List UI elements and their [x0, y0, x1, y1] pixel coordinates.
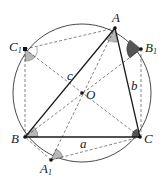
triangle-ABC — [25, 28, 140, 137]
side-label-b: b — [131, 78, 138, 93]
label-B1: B1 — [145, 40, 157, 56]
point-A — [113, 26, 117, 30]
point-O — [80, 91, 84, 95]
angle-arc-C1 — [35, 47, 37, 57]
point-A1 — [49, 158, 53, 162]
side-label-c: c — [67, 68, 73, 83]
label-A1: A1 — [39, 161, 52, 177]
angle-marker-B1 — [127, 40, 141, 58]
label-C: C — [144, 131, 153, 146]
label-A: A — [111, 10, 120, 25]
label-B: B — [11, 131, 19, 146]
point-C — [138, 135, 142, 139]
point-B1 — [139, 47, 143, 51]
label-C1: C1 — [9, 39, 22, 55]
geometry-diagram: A B C O A1 B1 C1 a b c — [0, 0, 164, 179]
point-B — [23, 135, 27, 139]
side-label-a: a — [80, 136, 87, 151]
label-O: O — [86, 87, 96, 102]
point-C1 — [23, 47, 27, 51]
